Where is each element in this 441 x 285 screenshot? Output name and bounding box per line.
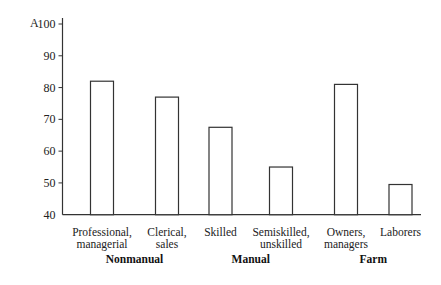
bar-chart: A405060708090100Professional,managerialC…	[0, 0, 441, 285]
group-label: Manual	[232, 253, 270, 265]
plot-area: A405060708090100Professional,managerialC…	[30, 16, 421, 265]
bar	[209, 127, 232, 214]
group-label: Farm	[360, 253, 388, 265]
bar	[91, 81, 114, 214]
y-tick-label: 100	[38, 17, 56, 31]
category-label: Skilled	[204, 226, 237, 238]
category-label: managers	[324, 238, 369, 251]
bar	[335, 84, 358, 214]
bar	[389, 185, 412, 215]
y-tick-label: 70	[44, 112, 56, 126]
category-label: sales	[156, 238, 179, 250]
category-label: Laborers	[380, 226, 421, 238]
y-tick-label: 50	[44, 176, 56, 190]
group-label: Nonmanual	[106, 253, 164, 265]
y-tick-label: 40	[44, 208, 56, 222]
bar	[270, 167, 293, 215]
y-tick-label: 80	[44, 81, 56, 95]
bar	[156, 97, 179, 215]
category-label: managerial	[76, 238, 127, 251]
y-tick-label: 60	[44, 144, 56, 158]
category-label: unskilled	[260, 238, 302, 250]
y-tick-label: 90	[44, 49, 56, 63]
